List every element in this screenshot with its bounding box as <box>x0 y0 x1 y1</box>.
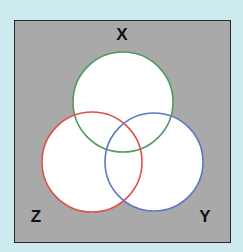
circle-fills <box>42 52 203 212</box>
set-y-label: Y <box>199 208 210 225</box>
set-x-label: X <box>116 26 127 43</box>
set-z-label: Z <box>31 208 41 225</box>
